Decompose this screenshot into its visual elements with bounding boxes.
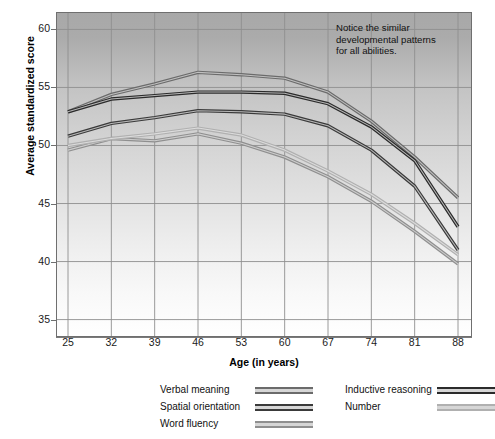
x-axis-title: Age (in years) <box>56 356 472 368</box>
x-axis-line <box>56 337 472 338</box>
y-axis-tick-label: 45 <box>20 197 50 209</box>
legend-item-label: Word fluency <box>160 418 218 429</box>
legend-item-swatch <box>437 404 495 411</box>
chart-legend: Verbal meaningSpatial orientationWord fl… <box>0 382 491 439</box>
legend-item[interactable]: Word fluency <box>0 418 491 432</box>
chart-annotation: Notice the similar developmental pattern… <box>336 22 444 57</box>
legend-item-label: Inductive reasoning <box>345 384 432 395</box>
legend-item[interactable]: Number <box>0 401 491 415</box>
legend-swatch-lower-rule <box>255 426 313 428</box>
plot-svg <box>56 12 472 337</box>
y-axis-tick-label: 50 <box>20 138 50 150</box>
legend-item-swatch <box>437 387 495 394</box>
legend-swatch-lower-rule <box>437 392 495 394</box>
plot-background <box>56 12 472 337</box>
legend-item-label: Number <box>345 401 381 412</box>
legend-swatch-lower-rule <box>437 409 495 411</box>
y-axis-tick-label: 40 <box>20 255 50 267</box>
legend-item-swatch <box>255 421 313 428</box>
y-axis-tick-label: 60 <box>20 22 50 34</box>
y-axis-tick-label: 35 <box>20 313 50 325</box>
legend-item[interactable]: Inductive reasoning <box>0 384 491 398</box>
y-axis-tick-label: 55 <box>20 80 50 92</box>
plot-area <box>56 12 472 337</box>
